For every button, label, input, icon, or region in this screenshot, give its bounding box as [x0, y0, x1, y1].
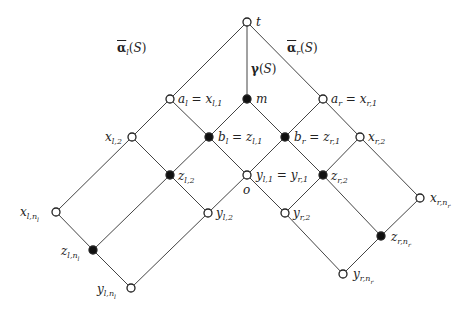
node-label-a_r: ar = xr,1	[331, 93, 377, 108]
edge-x_l2-z_l2	[132, 137, 170, 175]
node-z_rn	[377, 232, 385, 240]
node-a_l	[166, 95, 174, 103]
node-label-b_r: br = zr,1	[294, 131, 340, 146]
node-label-z_r2: zr,2	[331, 170, 348, 185]
node-m	[243, 95, 251, 103]
node-z_r2	[319, 171, 327, 179]
node-z_l2	[166, 171, 174, 179]
node-label-x_ln: xl,nl	[20, 206, 39, 223]
node-x_rn	[416, 194, 424, 202]
node-label-m: m	[256, 93, 267, 105]
edge-label-alpha-l: αl(S)	[117, 42, 146, 57]
node-a_r	[319, 95, 327, 103]
node-label-y_l2: yl,2	[216, 207, 233, 222]
node-label-t: t	[256, 16, 261, 28]
node-label-z_ln: zl,nl	[61, 245, 80, 262]
edge-label-gamma: γ(S)	[251, 63, 277, 75]
node-label-z_l2: zl,2	[178, 170, 195, 185]
lattice-diagram: tal = xl,1mar = xr,1xl,2bl = zl,1br = zr…	[0, 0, 473, 312]
node-y_l2	[204, 209, 212, 217]
vertex-o-label: o	[243, 184, 250, 196]
edge-label-alpha-r: αr(S)	[287, 42, 318, 57]
diagram-graphics	[0, 0, 473, 312]
node-t	[243, 18, 251, 26]
node-label-y_ln: yl,nl	[97, 283, 116, 300]
node-x_r2	[356, 133, 364, 141]
node-y_rn	[339, 270, 347, 278]
edge-t-a_r	[247, 22, 323, 99]
node-y_r2	[281, 209, 289, 217]
node-label-y_r2: yr,2	[293, 207, 310, 222]
node-label-y_rn: yr,nr	[353, 268, 373, 285]
node-label-o: yl,1 = yr,1	[256, 169, 308, 184]
node-o	[243, 171, 251, 179]
edge-y_l2-y_ln	[131, 213, 208, 288]
edge-a_l-x_l2	[132, 99, 170, 137]
edge-z_l2-z_ln	[93, 175, 170, 250]
node-x_ln	[52, 208, 60, 216]
node-b_l	[205, 133, 213, 141]
node-y_ln	[127, 284, 135, 292]
node-label-x_l2: xl,2	[105, 131, 122, 146]
node-x_l2	[128, 133, 136, 141]
node-label-x_r2: xr,2	[368, 131, 385, 146]
node-z_ln	[89, 246, 97, 254]
edge-x_l2-x_ln	[56, 137, 132, 212]
node-b_r	[281, 133, 289, 141]
edge-t-a_l	[170, 22, 247, 99]
node-label-x_rn: xr,nr	[430, 192, 450, 209]
node-label-b_l: bl = zl,1	[218, 131, 262, 146]
node-label-z_rn: zr,nr	[391, 231, 411, 248]
node-label-a_l: al = xl,1	[178, 93, 222, 108]
